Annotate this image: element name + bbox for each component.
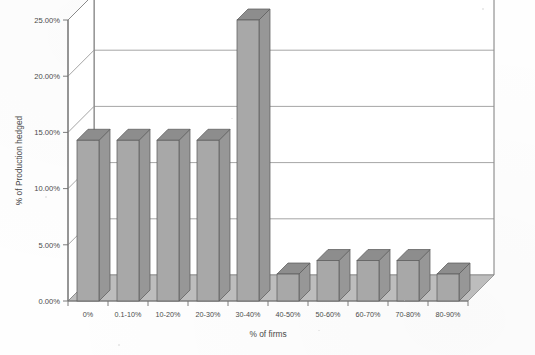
scan-speck <box>318 330 320 331</box>
x-axis-tick-label: 80-90% <box>436 310 461 319</box>
x-axis-tick-label: 10-20% <box>156 310 181 319</box>
y-axis-tick-label: 25.00% <box>34 16 60 25</box>
y-axis-tick-label: 0.00% <box>38 297 60 306</box>
y-axis-tick-label: 5.00% <box>38 241 60 250</box>
bar-column <box>317 250 350 301</box>
bar-side-face <box>139 129 150 301</box>
scan-speck <box>231 118 233 119</box>
bar-side-face <box>259 9 270 301</box>
bar-side-face <box>99 129 110 301</box>
bar-column <box>77 129 110 301</box>
bar-column <box>357 250 390 301</box>
bar-front-face <box>197 140 219 301</box>
bar-front-face <box>157 140 179 301</box>
x-axis-tick-label: 60-70% <box>356 310 381 319</box>
bar-column <box>197 129 230 301</box>
bar-column <box>157 129 190 301</box>
bar-side-face <box>219 129 230 301</box>
bar-front-face <box>357 261 379 301</box>
scan-speck <box>45 196 47 198</box>
bar-front-face <box>277 274 299 301</box>
bar-front-face <box>317 261 339 301</box>
bar-side-face <box>179 129 190 301</box>
bar-front-face <box>237 20 259 301</box>
x-axis-tick-label: 20-30% <box>196 310 221 319</box>
x-axis-title: % of firms <box>249 329 286 339</box>
x-axis-tick-label: 0% <box>83 310 94 319</box>
x-axis-tick-label: 70-80% <box>396 310 421 319</box>
bar-column <box>237 9 270 301</box>
bar-column <box>277 263 310 301</box>
bar-column <box>437 263 470 301</box>
bar-front-face <box>117 140 139 301</box>
chart-back-wall <box>94 0 494 275</box>
x-axis-tick-label: 50-60% <box>316 310 341 319</box>
x-axis-tick-label: 40-50% <box>276 310 301 319</box>
chart-canvas: 0.00%5.00%10.00%15.00%20.00%25.00%0%0.1-… <box>0 0 535 355</box>
bar-front-face <box>437 274 459 301</box>
y-axis-tick-label: 20.00% <box>34 72 60 81</box>
x-axis-tick-label: 0.1-10% <box>115 310 142 319</box>
bar-front-face <box>77 140 99 301</box>
x-axis-tick-label: 30-40% <box>236 310 261 319</box>
bar-chart: 0.00%5.00%10.00%15.00%20.00%25.00%0%0.1-… <box>0 0 535 355</box>
scan-speck <box>404 300 405 301</box>
scan-speck <box>118 344 120 346</box>
y-axis-tick-label: 15.00% <box>34 128 60 137</box>
bar-front-face <box>397 261 419 301</box>
scan-speck <box>482 8 484 10</box>
bar-column <box>397 250 430 301</box>
y-axis-tick-label: 10.00% <box>34 184 60 193</box>
y-axis-title: % of Production hedged <box>14 115 24 205</box>
bar-column <box>117 129 150 301</box>
